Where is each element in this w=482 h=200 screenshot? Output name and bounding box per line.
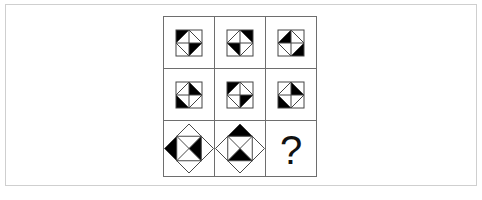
cell-r3-c1 <box>164 121 215 176</box>
cell-r2-c1 <box>164 69 215 121</box>
cell-r3-c3: ? <box>266 121 316 176</box>
cell-r1-c2 <box>215 17 266 69</box>
cell-r3-c2 <box>215 121 266 176</box>
cell-r2-c2 <box>215 69 266 121</box>
figure-square-diamond-icon <box>277 29 305 57</box>
question-mark: ? <box>280 130 302 170</box>
cell-r1-c3 <box>266 17 316 69</box>
figure-diamond-square-icon <box>164 123 214 174</box>
figure-square-diamond-icon <box>175 29 203 57</box>
figure-square-diamond-icon <box>226 29 254 57</box>
cell-r1-c1 <box>164 17 215 69</box>
figure-square-diamond-icon <box>175 81 203 109</box>
figure-diamond-square-icon <box>215 123 265 174</box>
figure-square-diamond-icon <box>277 81 305 109</box>
puzzle-grid: ? <box>163 16 317 177</box>
figure-square-diamond-icon <box>226 81 254 109</box>
cell-r2-c3 <box>266 69 316 121</box>
